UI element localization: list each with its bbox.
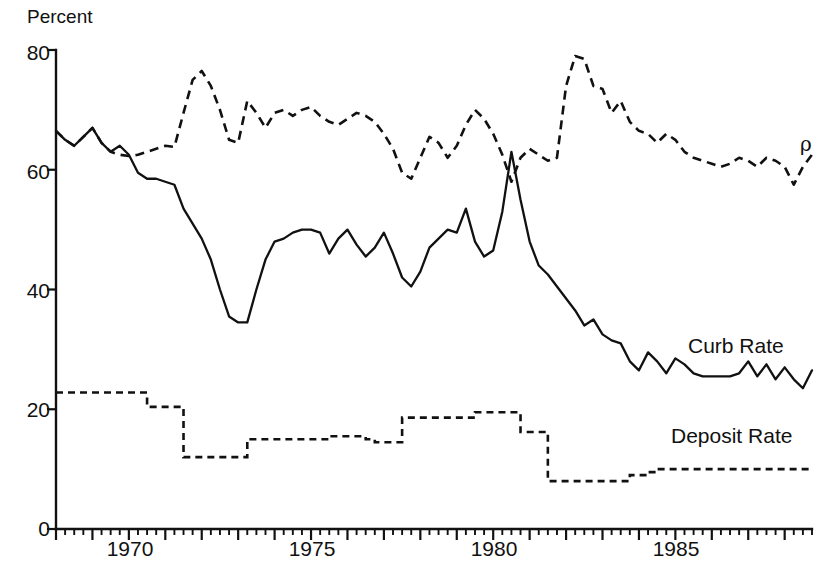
chart-axes: [56, 50, 812, 529]
chart-figure: Percent 0 20 40 60 80 1970 1975 1980 198…: [0, 0, 821, 579]
series-label-rho: ρ: [800, 132, 812, 156]
series-line-rho: [56, 56, 812, 185]
x-axis-tick-label-1970: 1970: [95, 537, 165, 561]
y-axis-tick-label-60: 60: [6, 160, 50, 184]
figure-caption: [110, 566, 710, 577]
y-axis-tick-label-0: 0: [6, 517, 50, 541]
series-label-deposit-rate: Deposit Rate: [671, 424, 792, 448]
series-label-curb-rate: Curb Rate: [688, 334, 784, 358]
chart-plot-area: [0, 0, 821, 579]
x-axis-tick-label-1975: 1975: [277, 537, 347, 561]
y-axis-tick-label-40: 40: [6, 279, 50, 303]
chart-series-group: [56, 56, 812, 481]
x-axis-tick-label-1980: 1980: [459, 537, 529, 561]
x-axis-tick-label-1985: 1985: [641, 537, 711, 561]
y-axis-tick-label-20: 20: [6, 398, 50, 422]
y-axis-tick-label-80: 80: [6, 41, 50, 65]
